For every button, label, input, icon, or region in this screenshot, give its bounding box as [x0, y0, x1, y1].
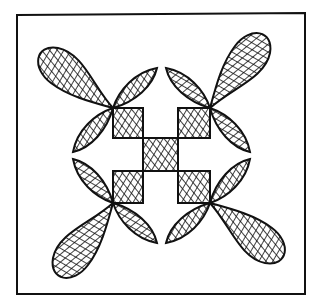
- checker-squares: [113, 108, 210, 203]
- quilt-block-illustration: [0, 0, 323, 305]
- quilt-drawing: [0, 0, 323, 305]
